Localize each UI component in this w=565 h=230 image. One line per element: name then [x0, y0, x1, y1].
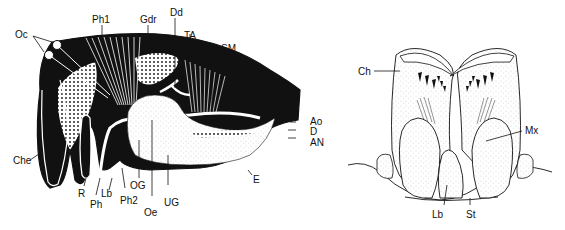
label-og: OG	[130, 180, 146, 191]
anatomical-diagram: Oc Ph1 Gdr Dd TA SM Ao D AN E Che R Ph L…	[0, 0, 565, 230]
sagittal-section: Oc Ph1 Gdr Dd TA SM Ao D AN E Che R Ph L…	[13, 7, 324, 218]
label-sm: SM	[221, 43, 236, 54]
label-lb-right: Lb	[432, 209, 444, 220]
labium	[438, 150, 463, 198]
label-e: E	[253, 174, 260, 185]
label-ug: UG	[164, 197, 179, 208]
label-gdr: Gdr	[140, 14, 157, 25]
label-d: D	[310, 126, 317, 137]
label-oc: Oc	[15, 29, 28, 40]
label-mx: Mx	[525, 125, 538, 136]
label-r: R	[78, 188, 85, 199]
label-oe: Oe	[144, 207, 158, 218]
label-an: AN	[310, 137, 324, 148]
label-ph2: Ph2	[120, 195, 138, 206]
maxilla-right	[472, 118, 513, 198]
maxilla-left	[399, 118, 440, 198]
label-lb: Lb	[101, 188, 113, 199]
mouthparts-frontal: Ch Mx Lb St	[348, 49, 552, 221]
label-ph1: Ph1	[92, 14, 110, 25]
label-che: Che	[13, 155, 32, 166]
label-ta: TA	[184, 30, 196, 41]
label-ch: Ch	[358, 66, 371, 77]
label-dd: Dd	[170, 7, 183, 18]
rostrum	[80, 115, 91, 179]
label-ph: Ph	[90, 199, 102, 210]
label-st: St	[466, 209, 476, 220]
